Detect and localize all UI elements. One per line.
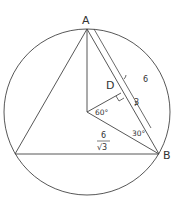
center-angle-label: 60°	[95, 108, 109, 117]
b-angle-label: 30°	[132, 129, 146, 138]
right-angle-marker	[116, 96, 124, 101]
measure-brace-tick	[124, 75, 126, 79]
side-ab	[87, 29, 159, 154]
point-label-d: D	[106, 79, 114, 92]
point-label-b: B	[163, 149, 171, 162]
geometry-diagram: A B D 6 3 60° 30° 6 √3	[0, 0, 177, 201]
radius-numerator: 6	[101, 131, 106, 140]
point-label-a: A	[82, 14, 90, 27]
half-side-label: 3	[134, 98, 139, 107]
radius-denominator: √3	[97, 143, 107, 152]
side-left	[15, 29, 87, 154]
side-length-label: 6	[143, 75, 148, 84]
